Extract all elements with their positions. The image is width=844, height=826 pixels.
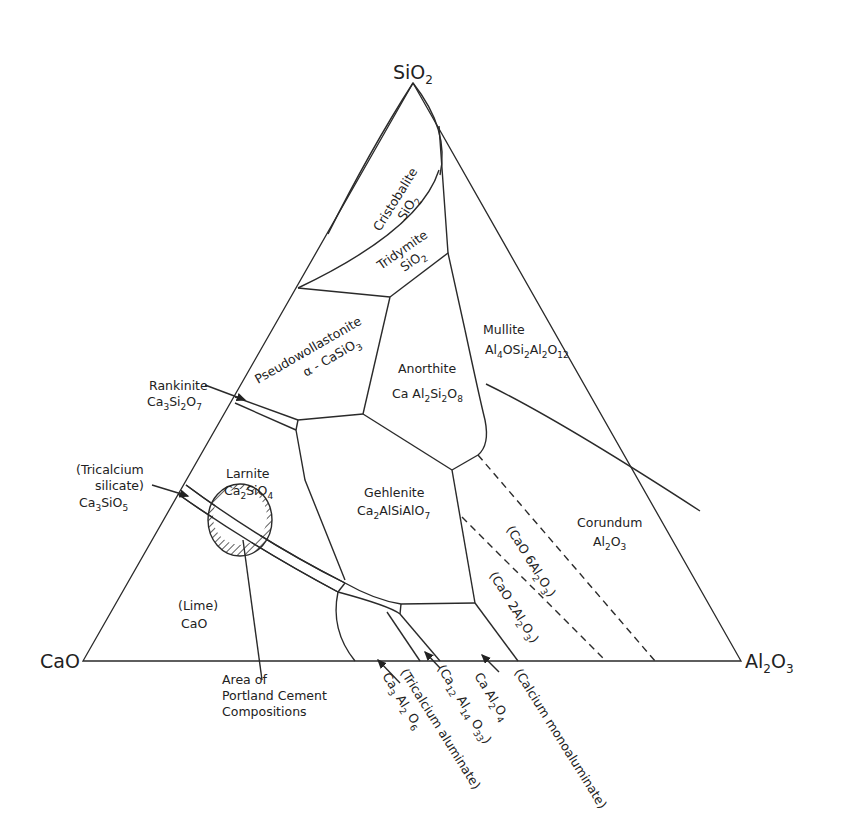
svg-text:Compositions: Compositions: [222, 704, 307, 719]
label-corundum: Corundum: [577, 515, 642, 530]
svg-text:(Calcium monoaluminate): (Calcium monoaluminate): [511, 666, 610, 812]
vertex-cao: CaO: [40, 650, 80, 672]
label-tricalcium-silicate-1: (Tricalcium: [76, 462, 144, 477]
label-cristobalite: Cristobalite SiO2: [370, 165, 436, 243]
formula-rankinite: Ca3Si2O7: [147, 394, 202, 412]
label-pseudowollastonite: Pseudowollastonite α - CaSiO3: [252, 313, 375, 405]
label-anorthite: Anorthite: [398, 361, 456, 376]
label-lime: (Lime): [178, 598, 218, 613]
svg-text:Portland Cement: Portland Cement: [222, 688, 327, 703]
ternary-phase-diagram: SiO2 CaO Al2O3: [0, 0, 844, 826]
svg-text:Area of: Area of: [222, 672, 267, 687]
formula-anorthite: Ca Al2Si2O8: [392, 386, 463, 404]
formula-corundum: Al2O3: [593, 534, 626, 552]
leader-lines: [152, 385, 499, 683]
formula-gehlenite: Ca2AlSiAlO7: [357, 503, 430, 521]
dashed-tie-lines: [462, 455, 655, 661]
label-gehlenite: Gehlenite: [364, 485, 425, 500]
label-monoaluminate: (Calcium monoaluminate): [511, 666, 610, 812]
portland-cement-area: [178, 484, 345, 592]
label-larnite: Larnite: [226, 466, 270, 481]
formula-lime: CaO: [181, 616, 207, 631]
formula-tricalcium-silicate: Ca3SiO5: [79, 495, 128, 513]
label-tricalcium-silicate-2: silicate): [95, 478, 144, 493]
label-portland-cement: Area of Portland Cement Compositions: [222, 672, 327, 719]
formula-mullite: Al4OSi2Al2O12: [485, 342, 569, 360]
label-rankinite: Rankinite: [149, 378, 208, 393]
label-mullite: Mullite: [483, 322, 525, 337]
label-tridymite: Tridymite SiO2: [373, 227, 440, 288]
vertex-al2o3: Al2O3: [745, 650, 794, 676]
